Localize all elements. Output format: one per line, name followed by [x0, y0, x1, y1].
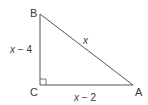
side-ca-label: x − 2: [73, 92, 96, 103]
side-ab-label: x: [82, 35, 89, 46]
side-bc-label: x − 4: [9, 44, 32, 55]
triangle-abc: [40, 14, 133, 85]
right-angle-marker: [40, 79, 46, 85]
triangle-diagram: B C A x − 4 x − 2 x: [0, 0, 148, 105]
vertex-c-label: C: [30, 86, 38, 98]
vertex-a-label: A: [135, 86, 143, 98]
vertex-b-label: B: [30, 7, 37, 19]
